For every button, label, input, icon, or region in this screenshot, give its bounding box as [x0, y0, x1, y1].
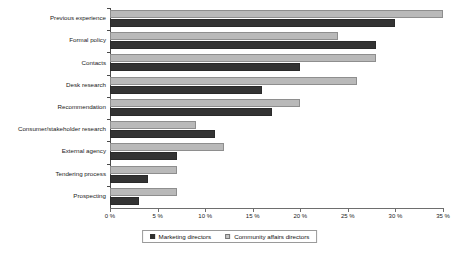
category-tick [107, 52, 110, 53]
bar-community-affairs-directors [110, 121, 196, 129]
bar-marketing-directors [110, 86, 262, 94]
category-group: Recommendation [110, 99, 443, 121]
bar-community-affairs-directors [110, 54, 376, 62]
value-axis-tick [300, 208, 301, 212]
category-group: Tendering process [110, 166, 443, 188]
category-group: Contacts [110, 54, 443, 76]
category-axis-label: Contacts [2, 60, 106, 67]
category-axis-label: Consumer/stakeholder research [2, 126, 106, 133]
value-axis-tick [158, 208, 159, 212]
legend-label: Community affairs directors [234, 233, 309, 240]
bar-community-affairs-directors [110, 77, 357, 85]
legend-item-community-affairs-directors: Community affairs directors [225, 233, 309, 240]
bar-community-affairs-directors [110, 166, 177, 174]
bar-community-affairs-directors [110, 10, 443, 18]
bar-marketing-directors [110, 130, 215, 138]
bar-chart: Previous experienceFormal policyContacts… [0, 0, 459, 255]
category-axis-label: Recommendation [2, 104, 106, 111]
category-axis-label: Desk research [2, 82, 106, 89]
value-axis-tick-label: 20 % [293, 213, 307, 219]
value-axis-tick [253, 208, 254, 212]
bar-marketing-directors [110, 108, 272, 116]
bar-marketing-directors [110, 175, 148, 183]
legend-item-marketing-directors: Marketing directors [150, 233, 212, 240]
category-group: Prospecting [110, 188, 443, 210]
bar-marketing-directors [110, 41, 376, 49]
bar-community-affairs-directors [110, 143, 224, 151]
category-group: Previous experience [110, 10, 443, 32]
category-tick [107, 97, 110, 98]
category-group: External agency [110, 143, 443, 165]
category-tick [107, 30, 110, 31]
category-axis-label: Tendering process [2, 171, 106, 178]
bar-community-affairs-directors [110, 32, 338, 40]
chart-legend: Marketing directors Community affairs di… [142, 230, 318, 243]
category-tick [107, 164, 110, 165]
legend-swatch-icon [150, 234, 155, 239]
value-axis-tick [205, 208, 206, 212]
category-group: Formal policy [110, 32, 443, 54]
bar-marketing-directors [110, 152, 177, 160]
category-tick [107, 8, 110, 9]
bar-community-affairs-directors [110, 188, 177, 196]
legend-label: Marketing directors [159, 233, 212, 240]
value-axis-tick [348, 208, 349, 212]
value-axis-tick [395, 208, 396, 212]
value-axis-tick [443, 208, 444, 212]
bar-marketing-directors [110, 63, 300, 71]
value-axis-tick-label: 0 % [105, 213, 115, 219]
value-axis-tick-label: 35 % [436, 213, 450, 219]
category-group: Consumer/stakeholder research [110, 121, 443, 143]
bar-marketing-directors [110, 19, 395, 27]
category-tick [107, 186, 110, 187]
category-axis-label: Formal policy [2, 37, 106, 44]
legend-swatch-icon [225, 234, 230, 239]
category-axis-label: External agency [2, 148, 106, 155]
category-axis-label: Prospecting [2, 193, 106, 200]
category-tick [107, 141, 110, 142]
value-axis-tick-label: 30 % [389, 213, 403, 219]
value-axis-tick-label: 5 % [152, 213, 162, 219]
bar-community-affairs-directors [110, 99, 300, 107]
bar-marketing-directors [110, 197, 139, 205]
value-axis-tick-label: 25 % [341, 213, 355, 219]
value-axis-tick-label: 15 % [246, 213, 260, 219]
category-group: Desk research [110, 77, 443, 99]
plot-area: Previous experienceFormal policyContacts… [110, 8, 443, 208]
category-axis-label: Previous experience [2, 15, 106, 22]
category-tick [107, 119, 110, 120]
value-axis-tick-label: 10 % [198, 213, 212, 219]
value-axis-tick [110, 208, 111, 212]
category-tick [107, 75, 110, 76]
